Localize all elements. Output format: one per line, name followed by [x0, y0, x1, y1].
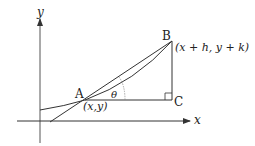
- right-angle-marker: [165, 93, 172, 100]
- secant-line: [50, 41, 172, 122]
- point-a-label: A: [74, 87, 84, 101]
- point-a-coords: (x,y): [83, 100, 108, 113]
- point-c-label: C: [174, 95, 183, 109]
- point-b-coords: (x + h, y + k): [175, 41, 249, 54]
- x-axis-label: x: [194, 113, 201, 127]
- angle-arc: [119, 77, 125, 100]
- theta-label: θ: [111, 89, 117, 100]
- y-axis-label: y: [36, 5, 44, 19]
- secant-diagram: y x A B C (x,y) (x + h, y + k) θ: [0, 0, 255, 146]
- point-b-label: B: [162, 29, 171, 43]
